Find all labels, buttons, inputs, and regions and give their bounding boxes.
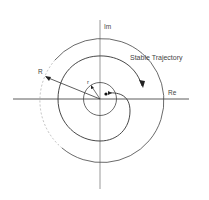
- spiral-end-arrow: [108, 91, 112, 95]
- diagram-canvas: [0, 0, 209, 200]
- real-axis-label: Re: [168, 89, 176, 96]
- radius-R-arrow-icon: [45, 76, 51, 81]
- radius-r-arrow-icon: [91, 85, 94, 89]
- trajectory-arrow-head: [139, 80, 145, 88]
- complex-plane-diagram: Im Re Stable Trajectory R r: [0, 0, 209, 200]
- radius-R-label: R: [38, 68, 43, 75]
- radius-r-label: r: [87, 79, 89, 85]
- imaginary-axis-label: Im: [104, 23, 111, 30]
- trajectory-start-dot: [104, 92, 107, 95]
- stable-trajectory-label: Stable Trajectory: [130, 54, 183, 61]
